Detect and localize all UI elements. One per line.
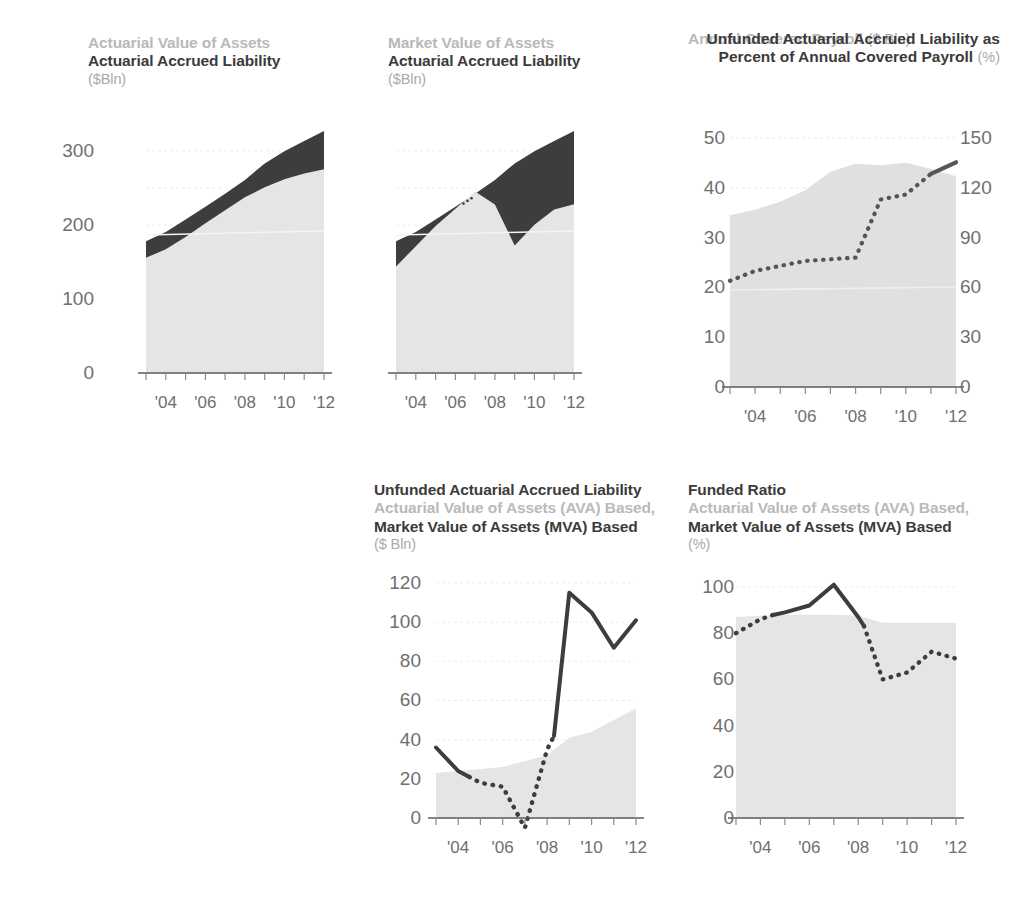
chart-panel-funded-ratio: Funded Ratio Actuarial Value of Assets (…	[688, 481, 1000, 848]
series-area-mva	[396, 191, 574, 372]
chart-svg-mva-vs-aal	[388, 121, 656, 391]
chart-panel-uaal-pct-payroll: Annual Covered Payroll ($ Bln) Unfunded …	[688, 30, 1000, 392]
xtick-10: '10	[895, 407, 917, 427]
ytick-80: 80	[400, 650, 421, 672]
xtick-04: '04	[744, 407, 766, 427]
header-line-3: Market Value of Assets (MVA) Based	[374, 518, 674, 536]
ytick-0: 0	[83, 362, 94, 384]
header-right-column: Unfunded Actuarial Accrued Liability as …	[688, 30, 1000, 66]
header-line-unit: ($ Bln)	[374, 536, 674, 553]
ytick-left-50: 50	[704, 127, 725, 149]
chart-header-uaal-ava-mva: Unfunded Actuarial Accrued Liability Act…	[374, 481, 674, 553]
ytick-left-10: 10	[704, 326, 725, 348]
x-axis-ticks	[736, 818, 956, 825]
chart-svg-ava-vs-aal	[88, 121, 356, 391]
xtick-04: '04	[405, 393, 427, 413]
xtick-10: '10	[581, 838, 603, 858]
ytick-left-40: 40	[704, 177, 725, 199]
ytick-left-20: 20	[704, 276, 725, 298]
series-line-uaal-pct-solid	[931, 162, 956, 174]
header-line-dark: Actuarial Accrued Liability	[88, 52, 356, 70]
ytick-80: 80	[713, 622, 734, 644]
ytick-0: 0	[410, 807, 421, 829]
ytick-right-60: 60	[960, 276, 981, 298]
xtick-12: '12	[625, 838, 647, 858]
header-right-line-1: Unfunded Actuarial	[707, 30, 849, 47]
ytick-20: 20	[713, 761, 734, 783]
ytick-120: 120	[389, 572, 421, 594]
ytick-60: 60	[400, 689, 421, 711]
xtick-12: '12	[945, 838, 967, 858]
xtick-12: '12	[313, 393, 335, 413]
xtick-04: '04	[155, 393, 177, 413]
header-right-line-4: Covered Payroll (%)	[855, 48, 1000, 65]
ytick-40: 40	[400, 729, 421, 751]
xtick-06: '06	[194, 393, 216, 413]
chart-panel-mva-vs-aal: Market Value of Assets Actuarial Accrued…	[388, 34, 656, 379]
chart-svg-funded-ratio	[688, 573, 1000, 863]
x-axis-ticks	[146, 373, 324, 380]
header-line-2: Actuarial Value of Assets (AVA) Based,	[374, 499, 674, 517]
header-line-unit: ($Bln)	[388, 71, 656, 88]
xtick-08: '08	[536, 838, 558, 858]
xtick-08: '08	[845, 407, 867, 427]
header-right-line-4-text: Covered Payroll	[855, 48, 973, 65]
ytick-60: 60	[713, 668, 734, 690]
ytick-left-30: 30	[704, 227, 725, 249]
ytick-right-90: 90	[960, 227, 981, 249]
ytick-right-150: 150	[960, 127, 992, 149]
x-axis-ticks	[730, 387, 956, 394]
ytick-100: 100	[389, 611, 421, 633]
xtick-10: '10	[273, 393, 295, 413]
plot-area-ava-vs-aal: 300 200 100 0	[88, 121, 356, 379]
chart-panel-uaal-ava-mva: Unfunded Actuarial Accrued Liability Act…	[374, 481, 674, 848]
chart-header-uaal-pct-payroll: Annual Covered Payroll ($ Bln) Unfunded …	[688, 30, 1000, 116]
xtick-06: '06	[492, 838, 514, 858]
header-line-unit: (%)	[688, 536, 1000, 553]
header-line-2: Actuarial Value of Assets (AVA) Based,	[688, 499, 1000, 517]
series-area-ava-based	[436, 708, 636, 818]
chart-header-funded-ratio: Funded Ratio Actuarial Value of Assets (…	[688, 481, 1000, 553]
header-line-unit: ($Bln)	[88, 71, 356, 88]
ytick-200: 200	[62, 214, 94, 236]
xtick-12: '12	[563, 393, 585, 413]
header-line-light: Actuarial Value of Assets	[88, 34, 356, 52]
x-axis-ticks	[436, 818, 636, 825]
xtick-04: '04	[447, 838, 469, 858]
header-line-light: Market Value of Assets	[388, 34, 656, 52]
plot-area-funded-ratio: 100 80 60 40 20 0	[688, 573, 1000, 848]
xtick-06: '06	[794, 407, 816, 427]
xtick-04: '04	[749, 838, 771, 858]
ytick-40: 40	[713, 715, 734, 737]
plot-area-uaal-ava-mva: 120 100 80 60 40 20 0	[374, 573, 674, 848]
series-area-ava-based	[736, 615, 956, 818]
ytick-right-0: 0	[960, 376, 971, 398]
xtick-10: '10	[523, 393, 545, 413]
xtick-08: '08	[847, 838, 869, 858]
header-line-dark: Actuarial Accrued Liability	[388, 52, 656, 70]
ytick-300: 300	[62, 140, 94, 162]
xtick-08: '08	[484, 393, 506, 413]
ytick-right-30: 30	[960, 326, 981, 348]
xtick-08: '08	[234, 393, 256, 413]
ytick-20: 20	[400, 768, 421, 790]
xtick-10: '10	[896, 838, 918, 858]
x-axis-ticks	[396, 373, 574, 380]
chart-header-ava-vs-aal: Actuarial Value of Assets Actuarial Accr…	[88, 34, 356, 88]
ytick-left-0: 0	[714, 376, 725, 398]
ytick-100: 100	[62, 288, 94, 310]
ytick-right-120: 120	[960, 177, 992, 199]
ytick-100: 100	[702, 576, 734, 598]
series-line-mva-solid-end	[554, 593, 636, 736]
chart-panel-ava-vs-aal: Actuarial Value of Assets Actuarial Accr…	[88, 34, 356, 379]
series-area-payroll	[730, 163, 956, 387]
plot-area-uaal-pct-payroll: 50 40 30 20 10 0 150 120 90 60 30 0	[688, 130, 1000, 392]
xtick-12: '12	[945, 407, 967, 427]
header-line-1: Funded Ratio	[688, 481, 1000, 499]
header-right-unit: (%)	[977, 49, 1000, 65]
header-line-1: Unfunded Actuarial Accrued Liability	[374, 481, 674, 499]
chart-header-mva-vs-aal: Market Value of Assets Actuarial Accrued…	[388, 34, 656, 88]
xtick-06: '06	[798, 838, 820, 858]
header-line-3: Market Value of Assets (MVA) Based	[688, 518, 1000, 536]
plot-area-mva-vs-aal: '04 '06 '08 '10 '12	[388, 121, 656, 379]
